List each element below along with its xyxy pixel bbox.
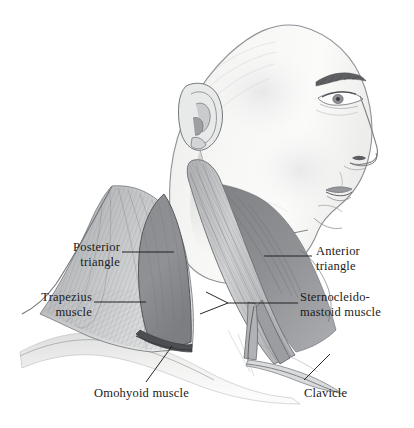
label-sternocleidomastoid-muscle: Sternocleido- mastoid muscle [300,290,412,319]
label-trapezius-muscle: Trapezius muscle [6,290,92,319]
ear [178,83,222,150]
label-posterior-triangle: Posterior triangle [22,240,120,269]
label-clavicle: Clavicle [304,386,368,401]
anatomy-figure: Posterior triangle Trapezius muscle Omoh… [0,0,414,428]
anatomy-illustration [0,0,414,428]
label-omohyoid-muscle: Omohyoid muscle [94,386,220,401]
label-anterior-triangle: Anterior triangle [316,244,400,273]
